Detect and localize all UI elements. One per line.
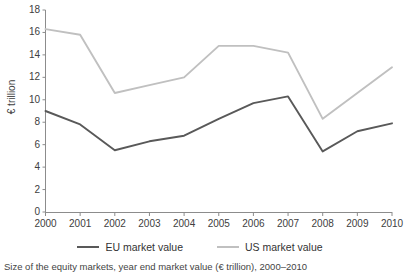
y-axis-tick-label: 12 <box>16 72 40 82</box>
y-axis-tick-label: 8 <box>16 117 40 127</box>
series-line-us-market-value <box>46 29 393 119</box>
y-axis-tick-label: 4 <box>16 162 40 172</box>
y-axis-tick-label: 16 <box>16 27 40 37</box>
legend-item[interactable]: US market value <box>217 242 323 253</box>
y-axis-tick-label: 18 <box>16 5 40 15</box>
legend-item-label: EU market value <box>105 242 183 253</box>
legend-swatch-icon <box>77 246 99 249</box>
y-axis-tick-label: 6 <box>16 140 40 150</box>
x-axis-tick-labels: 2000200120022003200420052006200720082009… <box>0 218 400 232</box>
data-series-group <box>46 29 393 151</box>
legend-item[interactable]: EU market value <box>77 242 183 253</box>
y-axis-tick-label: 10 <box>16 95 40 105</box>
y-axis-title: € trillion <box>7 47 17 147</box>
figure-caption: Size of the equity markets, year end mar… <box>4 261 396 272</box>
y-axis-tick-labels: 024681012141618 <box>14 0 40 232</box>
legend-swatch-icon <box>217 246 239 249</box>
y-axis-tick-label: 14 <box>16 50 40 60</box>
chart-canvas <box>0 0 400 232</box>
y-axis-tick-label: 0 <box>16 207 40 217</box>
legend-item-label: US market value <box>245 242 323 253</box>
chart-legend: EU market valueUS market value <box>0 240 400 254</box>
plot-area: 024681012141618 € trillion 2000200120022… <box>0 0 400 232</box>
y-axis-tick-label: 2 <box>16 185 40 195</box>
x-axis-tick-label: 2010 <box>372 218 408 229</box>
series-line-eu-market-value <box>46 96 393 151</box>
